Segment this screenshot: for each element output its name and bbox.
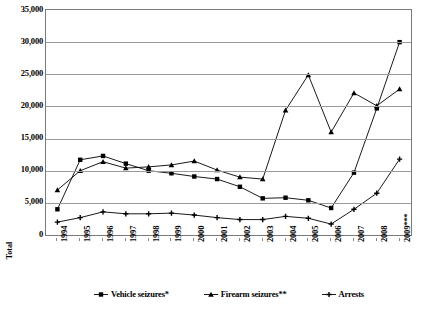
data-point [169,211,174,216]
series-line [57,159,399,224]
data-point [100,159,106,164]
x-axis-tick [262,238,263,241]
gridline [46,42,411,43]
data-point [191,158,197,163]
x-tick-label: 2007 [357,226,366,242]
y-axis-title: Total [5,229,14,273]
x-axis-labels: 1994199519961997199819992000200120022003… [45,238,412,290]
data-point [124,161,128,165]
legend-marker-plus-icon [321,290,337,299]
x-tick-label: 1999 [174,226,183,242]
plot-area [45,9,412,236]
x-axis-tick [79,238,80,241]
data-point [283,196,287,200]
chart-legend: Vehicle seizures*Firearm seizures**Arres… [45,290,412,308]
x-tick-label: 1994 [60,226,69,242]
data-point [215,177,219,181]
x-axis-tick [353,238,354,241]
data-point [238,185,242,189]
x-tick-label: 2003 [266,226,275,242]
data-point [214,215,219,220]
gridline [46,139,411,140]
data-point [306,216,311,221]
data-point [283,107,289,112]
x-axis-tick [376,238,377,241]
legend-marker-square-icon [93,290,109,299]
y-tick-label: 35,000 [3,5,43,14]
data-point [260,217,265,222]
x-tick-label: 2005 [311,226,320,242]
y-axis-labels: 05,00010,00015,00020,00025,00030,00035,0… [0,0,43,246]
x-tick-label: 2001 [220,226,229,242]
data-point [261,196,265,200]
legend-label: Vehicle seizures* [111,290,169,299]
data-point [169,171,173,175]
x-tick-label: 1998 [152,226,161,242]
y-tick-label: 25,000 [3,69,43,78]
data-point [397,157,402,162]
x-axis-tick [170,238,171,241]
series-2 [55,72,403,192]
data-point [55,207,59,211]
legend-label: Arrests [339,290,364,299]
legend-item[interactable]: Arrests [321,290,364,299]
data-point [146,211,151,216]
y-tick-label: 15,000 [3,133,43,142]
data-point [192,212,197,217]
data-point [237,217,242,222]
data-point [397,86,403,91]
data-point [78,158,82,162]
x-tick-label: 2004 [289,226,298,242]
x-axis-tick [307,238,308,241]
gridline [46,106,411,107]
x-tick-label: 2002 [243,226,252,242]
y-tick-label: 20,000 [3,101,43,110]
y-tick-label: 10,000 [3,165,43,174]
y-tick-label: 5,000 [3,197,43,206]
plot-svg [46,10,411,235]
gridline [46,203,411,204]
data-point [55,220,60,225]
x-tick-label: 1995 [83,226,92,242]
x-tick-label: 2006 [334,226,343,242]
data-point [306,198,310,202]
x-tick-label: 1996 [106,226,115,242]
x-axis-tick [102,238,103,241]
data-point [101,154,105,158]
data-point [328,129,334,134]
x-tick-label: 1997 [129,226,138,242]
x-axis-tick [56,238,57,241]
x-axis-tick [193,238,194,241]
x-axis-tick [330,238,331,241]
x-axis-tick [399,238,400,241]
gridline [46,74,411,75]
x-tick-label: 2000 [197,226,206,242]
x-axis-tick [239,238,240,241]
data-point [351,90,357,95]
y-tick-label: 30,000 [3,37,43,46]
series-line [57,42,399,209]
legend-marker-triangle-icon [203,290,219,299]
x-tick-label: 2009*** [403,214,412,242]
series-3 [55,157,402,227]
legend-item[interactable]: Vehicle seizures* [93,290,169,299]
data-point [100,209,105,214]
series-1 [55,40,402,212]
data-point [329,206,333,210]
x-axis-tick [148,238,149,241]
data-point [283,214,288,219]
x-axis-tick [125,238,126,241]
data-point [78,215,83,220]
chart-container: 05,00010,00015,00020,00025,00030,00035,0… [0,0,429,317]
legend-item[interactable]: Firearm seizures** [203,290,287,299]
series-line [57,75,399,190]
gridline [46,171,411,172]
data-point [192,174,196,178]
data-point [123,211,128,216]
legend-label: Firearm seizures** [221,290,287,299]
x-axis-tick [285,238,286,241]
x-tick-label: 2008 [380,226,389,242]
x-axis-tick [216,238,217,241]
